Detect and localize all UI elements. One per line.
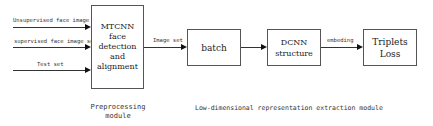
triplets-loss-box: Triplets Loss [363, 29, 417, 66]
edge-label-image-set: Image set [153, 37, 183, 43]
dcnn-line2: structure [275, 48, 313, 59]
dcnn-line1: DCNN [275, 37, 313, 48]
preprocessing-line1: Preprocessing [90, 103, 146, 112]
mtcnn-line1: MTCNN face [92, 22, 143, 42]
triplets-line1: Triplets [372, 36, 407, 48]
edge-dcnn-triplets-line [321, 47, 358, 48]
extraction-module-caption: Low-dimensional representation extractio… [195, 104, 383, 112]
mtcnn-line3: alignment [92, 62, 143, 72]
preprocessing-module-caption: Preprocessing module [90, 103, 146, 121]
input-label-unsupervised: Unsupervised face image set [13, 17, 102, 23]
input-arrow-unsupervised-line [13, 27, 85, 28]
input-arrow-supervised-line [13, 47, 85, 48]
triplets-line2: Loss [372, 48, 407, 60]
mtcnn-line2: detection and [92, 42, 143, 62]
input-arrow-test-line [13, 70, 85, 71]
dcnn-box: DCNN structure [267, 29, 321, 66]
preprocessing-line2: module [90, 112, 146, 121]
batch-label: batch [201, 43, 227, 53]
edge-label-embeding: embeding [327, 37, 354, 43]
edge-mtcnn-batch-line [144, 47, 182, 48]
batch-box: batch [187, 29, 241, 66]
mtcnn-box: MTCNN face detection and alignment [91, 5, 144, 89]
input-label-test: Test set [37, 61, 64, 67]
edge-batch-dcnn-line [241, 47, 262, 48]
